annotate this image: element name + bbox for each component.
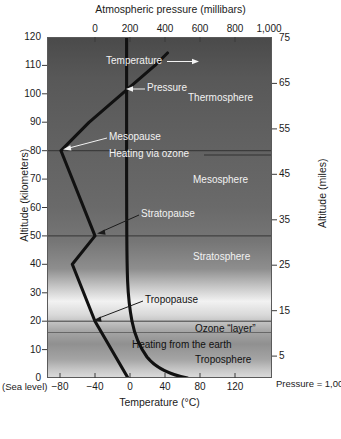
left-tick-label-10: 10	[5, 345, 41, 355]
bottom-tick-label-m40: −40	[87, 382, 104, 392]
left-tick-label-80: 80	[5, 146, 41, 156]
stratosphere-layer-label: Stratosphere	[193, 252, 250, 262]
bottom-axis-title: Temperature (°C)	[47, 397, 272, 408]
heating-via-ozone-label: Heating via ozone	[109, 149, 189, 159]
sea-level-note: (Sea level)	[2, 381, 46, 392]
temperature-series-label: Temperature	[106, 56, 162, 66]
top-tick-label-200: 200	[122, 24, 139, 34]
left-tick-label-120: 120	[5, 32, 41, 42]
top-tick-label-800: 800	[227, 24, 244, 34]
stratopause-boundary-label: Stratopause	[141, 209, 195, 219]
left-tick-label-40: 40	[5, 259, 41, 269]
right-tick-label-45: 45	[279, 169, 290, 179]
left-tick-label-70: 70	[5, 174, 41, 184]
bottom-tick-label-120: 120	[227, 382, 244, 392]
left-tick-label-90: 90	[5, 117, 41, 127]
bottom-tick-label-0: 0	[127, 382, 133, 392]
right-tick-label-5: 5	[279, 351, 285, 361]
left-tick-label-20: 20	[5, 316, 41, 326]
left-tick-label-110: 110	[5, 60, 41, 70]
right-tick-label-55: 55	[279, 124, 290, 134]
pressure-reference-note: Pressure = 1,000 millibars at ground lev…	[276, 378, 341, 390]
bottom-tick-label-80: 80	[194, 382, 205, 392]
pressure-series-label: Pressure	[147, 83, 187, 93]
right-tick-label-65: 65	[279, 78, 290, 88]
left-tick-label-60: 60	[5, 203, 41, 213]
top-tick-label-600: 600	[192, 24, 209, 34]
right-tick-label-15: 15	[279, 306, 290, 316]
bottom-tick-label-40: 40	[159, 382, 170, 392]
top-tick-label-1000: 1,000	[256, 24, 281, 34]
right-tick-label-25: 25	[279, 260, 290, 270]
thermosphere-layer-label: Thermosphere	[188, 93, 253, 103]
right-tick-label-35: 35	[279, 215, 290, 225]
heating-from-earth-label: Heating from the earth	[132, 340, 232, 350]
mesopause-boundary-label: Mesopause	[109, 132, 161, 142]
left-tick-label-100: 100	[5, 89, 41, 99]
tropopause-boundary-label: Tropopause	[145, 295, 198, 305]
right-axis-title: Altitude (miles)	[317, 123, 328, 263]
right-tick-label-75: 75	[279, 33, 290, 43]
plot-area: Temperature Pressure Thermosphere Mesopa…	[47, 37, 272, 378]
ozone-layer-label: Ozone “layer”	[195, 324, 256, 334]
top-tick-label-0: 0	[92, 24, 98, 34]
top-axis-title: Atmospheric pressure (millibars)	[0, 4, 341, 15]
atmosphere-profile-figure: Atmospheric pressure (millibars) 0 200 4…	[0, 0, 341, 439]
top-tick-label-400: 400	[157, 24, 174, 34]
troposphere-layer-label: Troposphere	[195, 355, 251, 365]
figure-caption	[20, 431, 341, 439]
left-tick-label-50: 50	[5, 231, 41, 241]
mesosphere-layer-label: Mesosphere	[193, 175, 248, 185]
bottom-tick-label-m80: −80	[52, 382, 69, 392]
left-tick-label-30: 30	[5, 288, 41, 298]
